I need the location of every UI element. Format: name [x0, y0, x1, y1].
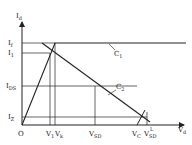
- tick-vc: VC: [131, 130, 141, 139]
- label-c2: C2: [116, 83, 125, 92]
- tick-vsd: VSD: [88, 130, 102, 139]
- curve-c1: [22, 43, 186, 125]
- label-c1: C1: [114, 50, 123, 59]
- tick-vk: Vk: [54, 130, 64, 139]
- tick-iz: IZ: [8, 113, 15, 122]
- tick-vsdl-sup: L: [150, 126, 154, 132]
- tick-i1: I1: [8, 49, 14, 58]
- curve-c2: [42, 43, 150, 122]
- tick-if: If: [8, 39, 14, 48]
- diagram-canvas: Id Vd O If I1 IDS IZ V1 Vk VSD VC VSD L …: [0, 0, 192, 145]
- tick-v1: V1: [45, 130, 54, 139]
- tick-ids: IDS: [6, 82, 17, 91]
- x-axis-label: Vd: [177, 126, 187, 135]
- origin-label: O: [18, 130, 24, 138]
- y-axis-label: Id: [16, 12, 23, 21]
